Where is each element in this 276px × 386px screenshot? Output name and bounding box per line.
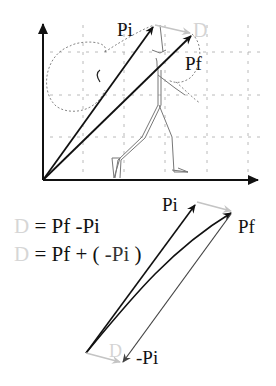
- equation-1-lhs: D: [14, 214, 29, 238]
- label-neg-pi: -Pi: [136, 347, 158, 368]
- swirl-path: [47, 42, 106, 111]
- label-pf: Pf: [238, 216, 256, 237]
- equation-2-rhs-suffix: ): [135, 242, 142, 266]
- equation-2-rhs-neg: -Pi: [105, 242, 130, 266]
- label-pi: Pi: [117, 19, 133, 40]
- equations: D = Pf -Pi D = Pf + ( -Pi ): [14, 214, 142, 266]
- label-pf: Pf: [185, 53, 203, 74]
- label-pi: Pi: [162, 194, 178, 215]
- label-d: D: [193, 19, 207, 41]
- equation-2-lhs: D: [14, 242, 29, 266]
- vector-pf: [86, 213, 231, 353]
- swirl-path: [176, 82, 200, 103]
- grid: [50, 25, 260, 178]
- equation-1: D = Pf -Pi: [14, 214, 100, 238]
- vector-neg-pi: [123, 214, 231, 362]
- equation-2-rhs-prefix: = Pf + (: [34, 242, 99, 266]
- label-d: D: [109, 341, 122, 361]
- vector-d-top: [197, 202, 231, 211]
- vector-pi: [43, 27, 153, 180]
- vector-pi: [86, 205, 195, 353]
- top-graph: Pi Pf D: [43, 19, 260, 180]
- equation-2: D = Pf + ( -Pi ): [14, 242, 142, 266]
- bottom-vector-diagram: Pi Pf D -Pi: [86, 194, 256, 368]
- rotation-arrow-icon: [97, 70, 100, 82]
- equation-1-rhs: = Pf -Pi: [34, 214, 100, 238]
- displacement-diagram: Pi Pf D D = Pf -Pi D = Pf + ( -Pi ) Pi P…: [0, 0, 276, 386]
